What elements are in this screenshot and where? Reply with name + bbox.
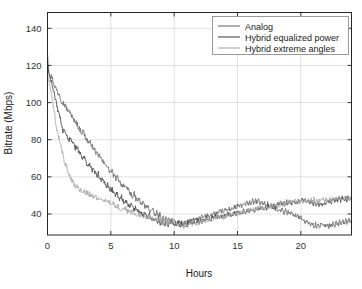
- legend-label-hybrid-extreme-angles: Hybrid extreme angles: [245, 44, 336, 54]
- legend[interactable]: Analog Hybrid equalized power Hybrid ext…: [213, 17, 349, 55]
- y-tick-label-4: 120: [26, 60, 42, 71]
- x-axis-title: Hours: [186, 268, 213, 279]
- y-tick-label-0: 40: [31, 208, 42, 219]
- y-tick-label-1: 60: [31, 171, 42, 182]
- x-tick-label-4: 20: [296, 240, 307, 251]
- x-tick-label-2: 10: [169, 240, 180, 251]
- y-tick-label-3: 100: [26, 97, 42, 108]
- y-tick-label-2: 80: [31, 134, 42, 145]
- x-tick-label-3: 15: [232, 240, 243, 251]
- x-tick-label-0: 0: [45, 240, 50, 251]
- x-tick-label-1: 5: [108, 240, 113, 251]
- y-axis-title: Bitrate (Mbps): [3, 92, 14, 155]
- legend-label-hybrid-equalized-power: Hybrid equalized power: [245, 33, 339, 43]
- y-tick-label-5: 140: [26, 23, 42, 34]
- bitrate-vs-hours-chart: 05101520 406080100120140 Hours Bitrate (…: [0, 0, 362, 289]
- legend-label-analog: Analog: [245, 22, 273, 32]
- figure-canvas: 05101520 406080100120140 Hours Bitrate (…: [0, 0, 362, 289]
